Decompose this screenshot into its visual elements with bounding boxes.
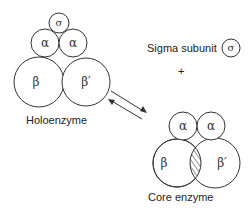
- free-sigma-group: Sigma subunit σ +: [147, 39, 240, 77]
- holo-beta-symbol: β: [33, 75, 40, 89]
- holo-alpha-right-symbol: α: [69, 36, 77, 50]
- sigma-subunit-label: Sigma subunit: [147, 42, 217, 54]
- holoenzyme-label: Holoenzyme: [26, 114, 87, 126]
- holoenzyme: σ α α β β′ Holoenzyme: [14, 13, 110, 126]
- rna-polymerase-diagram: σ α α β β′ Holoenzyme Sigma subunit σ + …: [0, 0, 252, 212]
- free-sigma-symbol: σ: [228, 42, 235, 53]
- holo-sigma-symbol: σ: [56, 17, 63, 28]
- core-beta-prime-symbol: β′: [217, 156, 227, 170]
- holo-alpha-left-symbol: α: [41, 36, 49, 50]
- core-enzyme-label: Core enzyme: [148, 191, 213, 203]
- core-beta-symbol: β: [161, 156, 168, 170]
- core-alpha-right-symbol: α: [207, 119, 215, 133]
- core-enzyme: α α β β′ Core enzyme: [148, 112, 240, 203]
- core-alpha-left-symbol: α: [179, 119, 187, 133]
- plus-sign: +: [178, 65, 184, 77]
- equilibrium-arrows-icon: [108, 91, 147, 119]
- holo-beta-prime-symbol: β′: [81, 75, 91, 89]
